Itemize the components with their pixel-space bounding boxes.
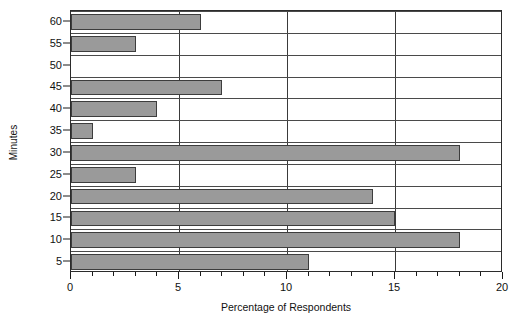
x-axis-tick-minor — [416, 272, 417, 276]
x-axis-tick-minor — [480, 272, 481, 276]
y-axis-tick-label: 15 — [50, 211, 62, 223]
y-axis-tick-label: 25 — [50, 168, 62, 180]
x-axis-tick-minor — [459, 272, 460, 276]
y-axis-tick-label: 35 — [50, 124, 62, 136]
y-axis-tick-mark — [63, 42, 70, 43]
y-axis-tick-mark — [63, 173, 70, 174]
y-axis-tick-mark — [63, 151, 70, 152]
y-axis-tick-label: 55 — [50, 37, 62, 49]
y-axis-tick-mark — [63, 64, 70, 65]
x-axis-tick-label: 0 — [67, 281, 73, 293]
y-axis-tick-label: 30 — [50, 146, 62, 158]
y-axis-tick-label: 40 — [50, 102, 62, 114]
x-axis-tick-minor — [372, 272, 373, 276]
y-axis-tick-label: 10 — [50, 233, 62, 245]
bar — [71, 123, 93, 139]
bar — [71, 80, 222, 96]
gridline-horizontal — [71, 164, 501, 165]
x-axis-tick-major — [178, 272, 179, 279]
bar — [71, 14, 201, 30]
gridline-horizontal — [71, 77, 501, 78]
x-axis-tick-labels: 05101520 — [70, 281, 502, 295]
y-axis-tick-label: 45 — [50, 80, 62, 92]
x-axis-tick-minor — [264, 272, 265, 276]
y-axis-tick-label: 20 — [50, 190, 62, 202]
x-axis-tick-minor — [221, 272, 222, 276]
y-axis-tick-mark — [63, 239, 70, 240]
x-axis-tick-minor — [437, 272, 438, 276]
gridline-horizontal — [71, 120, 501, 121]
bar — [71, 167, 136, 183]
x-axis-line — [70, 272, 502, 273]
plot-area — [70, 10, 502, 272]
gridline-horizontal — [71, 251, 501, 252]
bar — [71, 189, 373, 205]
y-axis-tick-mark — [63, 130, 70, 131]
x-axis-tick-minor — [351, 272, 352, 276]
y-axis-tick-mark — [63, 195, 70, 196]
y-axis-tick-mark — [63, 86, 70, 87]
y-axis-tick-mark — [63, 20, 70, 21]
x-axis-tick-minor — [135, 272, 136, 276]
gridline-horizontal — [71, 186, 501, 187]
gridline-horizontal — [71, 208, 501, 209]
x-axis-tick-minor — [329, 272, 330, 276]
gridline-horizontal — [71, 55, 501, 56]
x-axis-tick-minor — [200, 272, 201, 276]
x-axis-tick-minor — [243, 272, 244, 276]
bar — [71, 101, 157, 117]
bar — [71, 232, 460, 248]
bar — [71, 254, 309, 270]
y-axis-tick-mark — [63, 108, 70, 109]
bar — [71, 211, 395, 227]
gridline-horizontal — [71, 33, 501, 34]
gridline-horizontal — [71, 142, 501, 143]
x-axis-tick-major — [70, 272, 71, 279]
bar — [71, 36, 136, 52]
x-axis-tick-minor — [308, 272, 309, 276]
y-axis-tick-marks — [62, 0, 70, 285]
x-axis-tick-label: 5 — [175, 281, 181, 293]
y-axis-tick-label: 60 — [50, 15, 62, 27]
y-axis-tick-mark — [63, 217, 70, 218]
gridline-horizontal — [71, 98, 501, 99]
bar-chart: Minutes 51015202530354045505560 05101520… — [0, 0, 522, 327]
y-axis-tick-mark — [63, 261, 70, 262]
x-axis-tick-label: 15 — [388, 281, 400, 293]
gridline-horizontal — [71, 11, 501, 12]
x-axis-tick-minor — [156, 272, 157, 276]
x-axis-tick-label: 20 — [496, 281, 508, 293]
x-axis-tick-major — [394, 272, 395, 279]
x-axis-tick-minor — [113, 272, 114, 276]
y-axis-tick-labels: 51015202530354045505560 — [22, 0, 62, 285]
x-axis-tick-minor — [92, 272, 93, 276]
x-axis-label: Percentage of Respondents — [70, 301, 502, 313]
x-axis-tick-major — [286, 272, 287, 279]
y-axis-label-text: Minutes — [9, 125, 20, 161]
x-axis-tick-label: 10 — [280, 281, 292, 293]
bar — [71, 145, 460, 161]
x-axis-tick-major — [502, 272, 503, 279]
y-axis-tick-label: 50 — [50, 59, 62, 71]
gridline-horizontal — [71, 229, 501, 230]
